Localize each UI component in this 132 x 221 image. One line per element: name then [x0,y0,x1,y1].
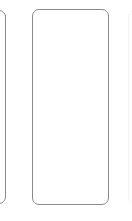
card-carousel[interactable] [0,0,132,221]
current-card[interactable] [32,9,109,205]
next-card[interactable] [128,10,132,204]
previous-card-content [0,11,5,203]
previous-card[interactable] [0,10,6,204]
next-card-content [129,11,132,203]
current-card-content [33,10,108,204]
